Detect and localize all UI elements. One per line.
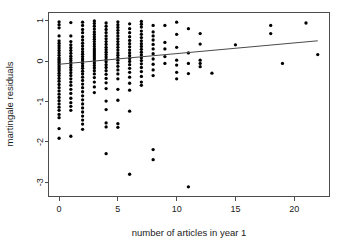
data-point [175,77,178,80]
data-point [269,24,272,27]
data-point [81,35,84,38]
y-axis-tick-labels: 10-1-2-3 [35,18,45,186]
data-point [116,126,119,129]
data-point [175,71,178,74]
data-point [81,69,84,72]
regression-line [59,41,318,64]
data-point [69,97,72,100]
data-point [104,60,107,63]
data-point [128,88,131,91]
data-point [104,121,107,124]
data-point [128,173,131,176]
data-point [128,110,131,113]
data-point [81,90,84,93]
data-point [116,68,119,71]
data-point [104,63,107,66]
x-axis-title: number of articles in year 1 [132,227,247,238]
data-point [128,39,131,42]
data-point [151,24,154,27]
data-point [304,21,307,24]
data-point [199,62,202,65]
data-point [69,109,72,112]
data-point [81,28,84,31]
data-point [57,34,60,37]
data-point [175,46,178,49]
data-point [199,59,202,62]
data-point [116,72,119,75]
x-tick-label: 0 [57,204,62,214]
data-point [81,86,84,89]
data-point [57,20,60,23]
data-point [57,80,60,83]
data-point [57,86,60,89]
data-point [104,34,107,37]
data-point [69,92,72,95]
data-point [116,20,119,23]
data-point [140,36,143,39]
data-point [151,47,154,50]
data-point [151,34,154,37]
data-point [140,53,143,56]
data-point [163,41,166,44]
data-point [151,57,154,60]
data-point [140,75,143,78]
data-point [104,28,107,31]
data-point [269,32,272,35]
data-point [187,72,190,75]
data-point [69,101,72,104]
data-point [104,99,107,102]
data-point [57,89,60,92]
data-point [140,84,143,87]
data-point [116,46,119,49]
data-point [57,74,60,77]
data-point [81,118,84,121]
data-point [116,65,119,68]
data-point [128,67,131,70]
data-point [81,76,84,79]
data-point [93,72,96,75]
data-point [93,27,96,30]
data-point [57,102,60,105]
x-axis-ticks [59,197,294,201]
data-point [151,43,154,46]
data-point [128,27,131,30]
data-point [104,31,107,34]
data-point [57,127,60,130]
data-point [128,71,131,74]
data-point [140,59,143,62]
data-point [57,105,60,108]
data-point [104,81,107,84]
data-point [57,116,60,119]
data-point [57,113,60,116]
data-point [93,91,96,94]
data-point [69,40,72,43]
y-axis-ticks [45,21,49,183]
data-point [104,69,107,72]
data-point [140,50,143,53]
data-point [69,71,72,74]
data-point [69,135,72,138]
y-tick-label: -1 [35,97,45,105]
data-point [210,72,213,75]
data-point [69,52,72,55]
data-point [81,67,84,70]
data-point [104,125,107,128]
data-point [187,62,190,65]
data-point [69,80,72,83]
data-point [140,25,143,28]
data-point [140,39,143,42]
data-point [93,76,96,79]
data-point [93,25,96,28]
data-point [163,55,166,58]
data-point [116,122,119,125]
data-point [128,60,131,63]
data-point [151,68,154,71]
plot-frame [49,13,330,197]
data-point [163,62,166,65]
data-point [104,43,107,46]
data-point [128,63,131,66]
data-point [128,35,131,38]
data-point [140,45,143,48]
data-point [57,109,60,112]
data-point [93,69,96,72]
